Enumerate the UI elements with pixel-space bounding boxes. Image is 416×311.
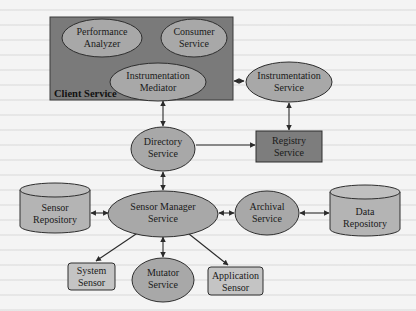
consumer-service-label-line2: Service (179, 38, 210, 49)
edge-sensor-manager-to-application-sensor (184, 230, 228, 265)
instrumentation-service-label-line1: Instrumentation (257, 70, 320, 81)
directory-service-node[interactable]: Directory Service (131, 127, 195, 171)
mutator-service-label-line2: Service (148, 279, 179, 290)
consumer-service-node[interactable]: Consumer Service (161, 19, 227, 57)
sensor-manager-service-label-line1: Sensor Manager (130, 201, 196, 212)
edges (91, 81, 329, 265)
application-sensor-label-line2: Sensor (222, 282, 250, 293)
archival-service-label-line1: Archival (250, 201, 285, 212)
mutator-service-label-line1: Mutator (147, 267, 180, 278)
data-repository-label-line1: Data (356, 206, 375, 217)
sensor-repository-label-line2: Repository (33, 214, 77, 225)
registry-service-label-line1: Registry (272, 135, 306, 146)
instrumentation-mediator-label-line1: Instrumentation (126, 70, 189, 81)
directory-service-label-line1: Directory (144, 136, 182, 147)
instrumentation-mediator-node[interactable]: Instrumentation Mediator (110, 63, 206, 101)
data-repository-label-line2: Repository (343, 218, 387, 229)
mutator-service-node[interactable]: Mutator Service (132, 258, 194, 302)
client-service-label: Client Service (54, 88, 117, 99)
system-sensor-label-line1: System (77, 265, 107, 276)
archival-service-node[interactable]: Archival Service (235, 191, 299, 235)
application-sensor-node[interactable]: Application Sensor (208, 267, 263, 295)
registry-service-node[interactable]: Registry Service (256, 131, 322, 162)
system-sensor-label-line2: Sensor (78, 277, 106, 288)
instrumentation-service-label-line2: Service (274, 82, 305, 93)
registry-service-label-line2: Service (274, 147, 305, 158)
performance-analyzer-label-line1: Performance (76, 26, 128, 37)
instrumentation-mediator-label-line2: Mediator (140, 82, 177, 93)
application-sensor-label-line1: Application (212, 270, 259, 281)
sensor-repository-label-line1: Sensor (41, 202, 69, 213)
sensor-manager-service-node[interactable]: Sensor Manager Service (108, 191, 218, 237)
instrumentation-service-node[interactable]: Instrumentation Service (246, 62, 332, 102)
edge-sensor-manager-to-system-sensor (96, 230, 142, 261)
sensor-repository-node[interactable]: Sensor Repository (20, 183, 90, 233)
client-service-container[interactable]: Client Service Performance Analyzer Cons… (50, 17, 233, 101)
data-repository-node[interactable]: Data Repository (330, 185, 400, 236)
directory-service-label-line2: Service (148, 148, 179, 159)
system-sensor-node[interactable]: System Sensor (68, 263, 115, 290)
architecture-diagram: Client Service Performance Analyzer Cons… (0, 0, 416, 311)
consumer-service-label-line1: Consumer (173, 26, 215, 37)
sensor-manager-service-label-line2: Service (148, 213, 179, 224)
archival-service-label-line2: Service (252, 213, 283, 224)
performance-analyzer-node[interactable]: Performance Analyzer (62, 19, 142, 57)
performance-analyzer-label-line2: Analyzer (84, 38, 121, 49)
